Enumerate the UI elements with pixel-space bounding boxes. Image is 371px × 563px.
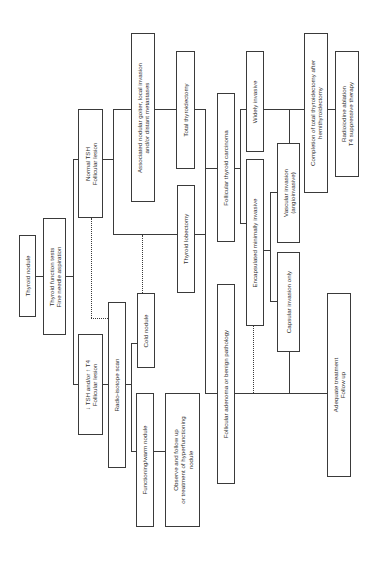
node-label: Capsular invasion only <box>285 271 292 333</box>
node-label: Cold nodule <box>142 314 149 347</box>
connector <box>240 109 246 110</box>
dotted-connector <box>91 318 108 319</box>
node-label: hemithyroidectomy <box>316 60 323 166</box>
node-functioning-nodule: Functioning/warm nodule <box>136 393 154 527</box>
connector <box>103 384 108 385</box>
node-label: Follicular lesion <box>91 142 98 185</box>
node-label: Thyroid lobectomy <box>182 214 189 265</box>
node-thyroid-function-tests: Thyroid function tests Fine needle aspir… <box>43 218 66 335</box>
connector <box>131 451 136 452</box>
node-observe-follow-up: Observe and follow up or treatment of hy… <box>165 393 200 527</box>
node-thyroid-nodule: Thyroid nodule <box>19 235 36 317</box>
node-label: Fine needle aspiration <box>55 246 62 307</box>
connector <box>289 352 290 393</box>
connector <box>73 159 74 385</box>
dotted-connector <box>91 218 92 318</box>
node-label: Associated nodular goiter, local invasio… <box>136 62 143 172</box>
connector <box>113 234 177 235</box>
node-label: Adequate treatment <box>332 358 339 412</box>
node-follicular-carcinoma: Follicular thyroid carcinoma <box>217 93 235 242</box>
node-label: Follicular thyroid carcinoma <box>222 130 229 205</box>
node-label: Vascular invasion <box>281 169 288 217</box>
node-label: Observe and follow up <box>171 416 178 503</box>
node-label: Widely invasive <box>251 80 258 123</box>
connector <box>73 159 78 160</box>
dotted-connector <box>142 235 143 293</box>
node-vascular-invasion: Vascular invasion (angioinvasive) <box>277 143 300 243</box>
node-label: Thyroid nodule <box>24 256 31 297</box>
node-normal-tsh: Normal TSH Follicular lesion <box>78 109 103 218</box>
node-cold-nodule: Cold nodule <box>137 293 155 368</box>
node-radioisotope-scan: Radio-isotope scan <box>108 302 126 468</box>
connector <box>113 109 131 110</box>
connector <box>240 223 246 224</box>
node-encapsulated-minimally-invasive: Encapsulated minimally invasive <box>246 159 264 326</box>
node-label: Radioiodine ablation <box>340 82 347 146</box>
connector <box>240 109 241 224</box>
node-label: Encapsulated minimally invasive <box>251 198 258 287</box>
node-label: Normal TSH <box>83 142 90 185</box>
node-total-thyroidectomy: Total thyroidectomy <box>176 51 195 169</box>
connector <box>235 393 327 394</box>
connector <box>103 159 113 160</box>
node-label: nodule <box>186 416 193 503</box>
node-label: ↓ TSH and/or ↑ T4 <box>83 360 90 410</box>
connector <box>205 109 206 394</box>
node-label: Completion of total thyroidectomy after <box>309 60 316 166</box>
dotted-connector <box>253 326 254 393</box>
node-widely-invasive: Widely invasive <box>246 51 264 152</box>
connector <box>36 276 43 277</box>
connector <box>270 192 277 193</box>
connector <box>131 343 132 451</box>
node-label: Functioning/warm nodule <box>141 425 148 494</box>
connector <box>73 384 78 385</box>
connector <box>131 343 137 344</box>
connector <box>66 276 73 277</box>
node-completion-thyroidectomy: Completion of total thyroidectomy after … <box>304 33 328 193</box>
connector <box>205 168 217 169</box>
connector <box>264 109 304 110</box>
connector <box>328 109 335 110</box>
node-label: Thyroid function tests <box>47 246 54 307</box>
thyroid-nodule-flowchart: Thyroid nodule Thyroid function tests Fi… <box>0 0 371 563</box>
node-thyroid-lobectomy: Thyroid lobectomy <box>177 185 195 293</box>
node-follicular-adenoma: Follicular adenoma or benign pathology <box>217 284 235 484</box>
node-adequate-treatment: Adequate treatment Follow up <box>327 293 351 477</box>
connector <box>195 234 205 235</box>
connector <box>113 109 114 235</box>
node-capsular-invasion: Capsular invasion only <box>277 252 300 352</box>
node-label: and/or distant metastases <box>143 62 150 172</box>
node-radioiodine-ablation: Radioiodine ablation T4 suppressive ther… <box>335 51 359 177</box>
node-label: Total thyroidectomy <box>182 83 189 136</box>
node-associated-goiter: Associated nodular goiter, local invasio… <box>131 33 155 202</box>
connector <box>289 109 290 143</box>
connector <box>270 301 277 302</box>
node-label: (angioinvasive) <box>289 169 296 217</box>
node-label: Follicular adenoma or benign pathology <box>222 330 229 438</box>
node-label: Follow up <box>339 358 346 412</box>
connector <box>270 192 271 302</box>
connector <box>154 451 165 452</box>
connector <box>205 393 217 394</box>
node-label: or treatment of hyperfunctioning <box>179 416 186 503</box>
node-label: T4 suppressive therapy <box>347 82 354 146</box>
connector <box>195 109 205 110</box>
connector <box>155 109 176 110</box>
node-label: Radio-isotope scan <box>113 359 120 412</box>
node-label: Follicular lesion <box>91 360 98 410</box>
node-low-tsh: ↓ TSH and/or ↑ T4 Follicular lesion <box>78 334 103 435</box>
